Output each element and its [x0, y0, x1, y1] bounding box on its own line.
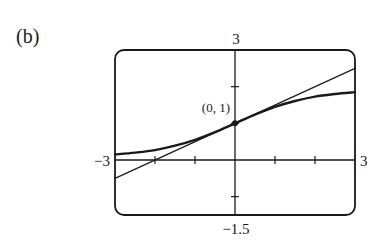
point-marker: [232, 120, 238, 126]
point-label: (0, 1): [202, 100, 230, 115]
y-max-label: 3: [232, 31, 240, 47]
axis-labels: 3 −1.5 −3 3 (0, 1): [94, 31, 367, 237]
graph-window: 3 −1.5 −3 3 (0, 1): [0, 0, 373, 246]
x-min-label: −3: [94, 153, 110, 169]
axes: [115, 50, 355, 215]
x-max-label: 3: [360, 153, 368, 169]
y-min-label: −1.5: [222, 221, 249, 237]
